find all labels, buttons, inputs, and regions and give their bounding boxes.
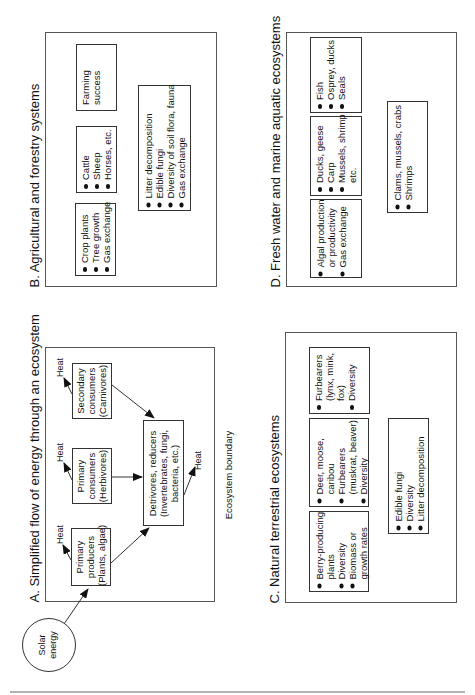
box-farming-success: Farming success — [76, 44, 117, 111]
panel-d-title: D. Fresh water and marine aquatic ecosys… — [267, 15, 282, 287]
panel-d-title-wrap: D. Fresh water and marine aquatic ecosys… — [265, 32, 285, 287]
list-item: Litter decomposition — [414, 436, 425, 531]
box-predators: Fish Osprey, ducks Seals — [310, 37, 362, 113]
list-item: Sheep — [91, 129, 102, 190]
list-item: Diversity of soil flora, fauna — [164, 84, 175, 208]
arrow-heat-secondary — [64, 378, 72, 394]
list-item: Tree growth — [90, 202, 101, 273]
list-item: Algal production or productivity — [314, 199, 336, 277]
list-item: Fish — [314, 40, 325, 110]
list-item: Shrimps — [402, 104, 413, 210]
list-item: Diversity — [346, 353, 357, 411]
box-plants: Berry-producing plants Diversity Biomass… — [309, 511, 369, 592]
list-item: Edible fungi — [153, 84, 164, 208]
list-item: Clams, mussels, crabs — [391, 104, 402, 210]
box-soil-processes: Litter decomposition Edible fungi Divers… — [138, 85, 191, 211]
list-item: Osprey, ducks — [325, 40, 336, 110]
list-item: Diversity — [357, 420, 368, 504]
list-item: Seals — [336, 40, 347, 110]
arrow-solar-to-producers — [64, 589, 88, 624]
arrow-carnivores-to-detrivores — [112, 385, 154, 418]
box-aquatic-producers: Algal production or productivity Gas exc… — [310, 199, 362, 278]
list-item: Horses, etc. — [102, 129, 113, 190]
list-item: Furbearers (lynx, mink, fox) — [313, 353, 346, 411]
box-livestock: Cattle Sheep Horses, etc. — [76, 126, 117, 193]
box-aquatic-consumers: Ducks, geese Carp Mussels, shrimp etc. — [310, 116, 362, 196]
list-item: Berry-producing plants — [313, 511, 335, 589]
list-item: Furbearers (muskrat, beaver) — [335, 420, 357, 504]
farming-label-line: success — [91, 70, 102, 105]
box-soil-natural: Edible fungi Diversity Litter decomposit… — [388, 418, 429, 534]
list-item: Crop plants — [79, 202, 90, 273]
panel-b-title: B. Agricultural and forestry systems — [26, 83, 41, 287]
list-item: Cattle — [80, 129, 91, 190]
list-item: Carp — [325, 114, 336, 193]
list-item: Gas exchange — [101, 202, 112, 273]
panel-b-title-wrap: B. Agricultural and forestry systems — [24, 32, 44, 287]
panel-c-title: C. Natural terrestrial ecosystems — [266, 414, 281, 603]
arrow-heat-detrivores — [184, 467, 195, 495]
list-item: Mussels, shrimp etc. — [336, 114, 358, 193]
list-item: Deer, moose, caribou — [313, 420, 335, 504]
list-item: Ducks, geese — [314, 114, 325, 193]
box-benthos: Clams, mussels, crabs Shrimps — [387, 101, 428, 213]
list-item: Diversity — [403, 436, 414, 531]
arrow-heat-producers — [63, 545, 71, 560]
arrow-heat-primary-consumers — [64, 463, 72, 480]
box-carnivores: Furbearers (lynx, mink, fox) Diversity — [309, 347, 370, 414]
arrow-producers-to-detrivores — [111, 528, 149, 563]
panel-c-title-wrap: C. Natural terrestrial ecosystems — [264, 332, 284, 603]
list-item: Diversity — [335, 511, 346, 589]
list-item: Gas exchange — [175, 84, 186, 208]
box-crops: Crop plants Tree growth Gas exchange — [75, 203, 116, 276]
list-item: Gas exchange — [336, 199, 347, 277]
list-item: Biomass or growth rates — [346, 511, 368, 589]
box-herbivores: Deer, moose, caribou Furbearers (muskrat… — [309, 418, 369, 507]
list-item: Litter decomposition — [142, 84, 153, 208]
farming-label-line: Farming — [80, 70, 91, 105]
list-item: Edible fungi — [392, 436, 403, 531]
